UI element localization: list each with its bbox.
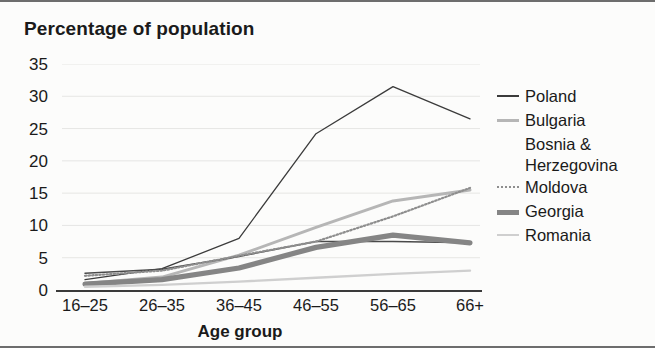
x-axis-tick-label: 46–55: [293, 295, 339, 315]
legend-item[interactable]: Romania: [497, 225, 652, 248]
legend-swatch-icon: [497, 177, 519, 197]
legend-swatch-icon: [497, 110, 519, 130]
legend-item-label: Moldova: [525, 177, 587, 198]
legend-item[interactable]: Poland: [497, 86, 652, 109]
series-line: [85, 87, 470, 280]
y-axis-tick-label: 30: [29, 88, 48, 105]
y-axis: 05101520253035: [0, 54, 56, 300]
legend-item[interactable]: Bosnia & Herzegovina: [497, 134, 652, 176]
legend-item-label: Romania: [525, 225, 591, 246]
legend-item[interactable]: Georgia: [497, 201, 652, 224]
legend-item-label: Poland: [525, 86, 576, 107]
legend-item[interactable]: Bulgaria: [497, 110, 652, 133]
x-axis-line: [56, 290, 482, 292]
legend-item-label: Bosnia & Herzegovina: [525, 134, 618, 176]
y-axis-tick-label: 0: [39, 282, 48, 299]
x-axis-tick-label: 26–35: [139, 295, 185, 315]
legend-item[interactable]: Moldova: [497, 177, 652, 200]
y-axis-tick-label: 35: [29, 56, 48, 73]
y-axis-tick-label: 5: [39, 249, 48, 266]
y-axis-tick-label: 10: [29, 217, 48, 234]
legend-item-label: Bulgaria: [525, 110, 586, 131]
legend-swatch-icon: [497, 86, 519, 106]
x-axis-tick-label: 56–65: [370, 295, 416, 315]
y-axis-tick-label: 20: [29, 152, 48, 169]
legend-item-label: Georgia: [525, 201, 584, 222]
series-line: [85, 188, 470, 276]
legend-swatch-icon: [497, 225, 519, 245]
y-axis-tick-label: 15: [29, 185, 48, 202]
data-series-layer: [62, 64, 480, 290]
x-axis-tick-label: 16–25: [62, 295, 108, 315]
legend-swatch-icon: [497, 134, 519, 154]
x-axis-tick-label: 36–45: [216, 295, 262, 315]
y-axis-tick-label: 25: [29, 120, 48, 137]
legend-swatch-icon: [497, 201, 519, 221]
page-title: Percentage of population: [24, 18, 254, 40]
x-axis-tick-label: 66+: [456, 295, 484, 315]
x-axis-label: Age group: [0, 322, 480, 342]
plot-area: [62, 64, 480, 290]
x-axis: 16–2526–3536–4546–5556–6566+: [62, 295, 480, 319]
chart-figure: Percentage of population 05101520253035 …: [0, 0, 655, 348]
chart-legend: PolandBulgariaBosnia & HerzegovinaMoldov…: [497, 86, 652, 249]
